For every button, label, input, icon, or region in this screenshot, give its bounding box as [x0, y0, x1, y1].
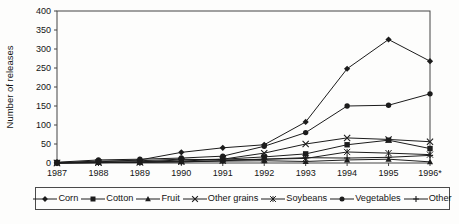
plus-legend-glyph-icon: [404, 194, 428, 204]
series-vegetables: [54, 91, 432, 165]
asterisk-legend-glyph-icon: [261, 194, 285, 204]
legend-item-fruit: Fruit: [136, 194, 179, 204]
legend-label: Fruit: [161, 194, 179, 203]
x-legend-glyph-icon: [183, 194, 207, 204]
square-marker-icon: [427, 146, 432, 151]
legend-item-soybeans: Soybeans: [261, 194, 327, 204]
legend-label: Vegetables: [355, 194, 400, 203]
series-line: [57, 40, 430, 164]
circle-marker-icon: [427, 91, 432, 96]
y-tick-label: 150: [36, 101, 51, 111]
chart-legend: CornCottonFruitOther grainsSoybeansVeget…: [35, 187, 450, 210]
circle-marker-icon: [303, 130, 308, 135]
legend-item-cotton: Cotton: [81, 194, 133, 204]
x-tick-label: 1996*: [418, 168, 442, 178]
x-tick-label: 1993: [296, 168, 316, 178]
legend-label: Other: [429, 194, 452, 203]
x-tick-label: 1990: [171, 168, 191, 178]
y-tick-label: 200: [36, 82, 51, 92]
y-tick-label: 0: [46, 158, 51, 168]
x-tick-label: 1995: [379, 168, 399, 178]
plus-marker-icon: [427, 152, 433, 158]
diamond-legend-glyph-icon: [33, 194, 57, 204]
plot-area: 0501001502002503003504001987198819891990…: [0, 0, 459, 188]
circle-marker-icon: [344, 103, 349, 108]
legend-item-corn: Corn: [33, 194, 78, 204]
y-tick-label: 50: [41, 139, 51, 149]
legend-label: Other grains: [208, 194, 259, 203]
x-tick-label: 1994: [337, 168, 357, 178]
triangle-legend-glyph-icon: [136, 194, 160, 204]
circle-legend-glyph-icon: [330, 194, 354, 204]
x-tick-label: 1991: [213, 168, 233, 178]
diamond-marker-icon: [220, 145, 226, 151]
x-tick-label: 1987: [47, 168, 67, 178]
series-corn: [54, 36, 433, 166]
legend-label: Soybeans: [286, 194, 327, 203]
field-releases-line-chart-figure: 0501001502002503003504001987198819891990…: [0, 0, 459, 224]
y-tick-label: 400: [36, 6, 51, 16]
circle-marker-icon: [340, 196, 345, 201]
y-tick-label: 250: [36, 63, 51, 73]
square-marker-icon: [344, 142, 349, 147]
plot-frame: [57, 11, 430, 163]
y-axis-title: Number of releases: [4, 45, 15, 128]
legend-label: Cotton: [106, 194, 133, 203]
plus-marker-icon: [413, 196, 419, 202]
x-axis: 1987198819891990199119921993199419951996…: [47, 163, 442, 178]
legend-item-vegetables: Vegetables: [330, 194, 400, 204]
diamond-marker-icon: [42, 196, 48, 202]
x-tick-label: 1989: [130, 168, 150, 178]
square-marker-icon: [91, 196, 96, 201]
series-line: [57, 94, 430, 162]
y-axis: 050100150200250300350400: [36, 6, 57, 168]
legend-item-other-grains: Other grains: [183, 194, 259, 204]
circle-marker-icon: [262, 144, 267, 149]
x-tick-label: 1988: [88, 168, 108, 178]
circle-marker-icon: [386, 103, 391, 108]
legend-label: Corn: [58, 194, 78, 203]
diamond-marker-icon: [427, 58, 433, 64]
y-tick-label: 300: [36, 44, 51, 54]
legend-item-other: Other: [404, 194, 452, 204]
diamond-marker-icon: [178, 149, 184, 155]
diamond-marker-icon: [385, 36, 391, 42]
square-legend-glyph-icon: [81, 194, 105, 204]
y-tick-label: 100: [36, 120, 51, 130]
x-tick-label: 1992: [254, 168, 274, 178]
y-tick-label: 350: [36, 25, 51, 35]
